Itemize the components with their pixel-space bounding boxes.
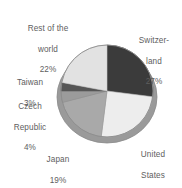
pie-label-switzerland-line2: land (128, 57, 180, 67)
pie-label-rest-of-world-line2: world (8, 45, 88, 55)
pie-label-czech-republic-line1: Czech (2, 102, 58, 112)
pie-label-rest-of-world-line1: Rest of the (8, 24, 88, 34)
pie-label-united-states: United States 25% (126, 140, 180, 188)
pie-label-taiwan-line1: Taiwan (2, 78, 58, 88)
pie-label-switzerland: Switzer- land 27% (128, 26, 180, 97)
pie-label-united-states-line1: United (126, 150, 180, 160)
pie-label-czech-republic-line2: Republic (2, 123, 58, 133)
pie-chart: Rest of the world 22% Switzer- land 27% … (0, 0, 182, 188)
pie-label-japan: Japan 19% (30, 145, 86, 188)
pie-label-switzerland-percent: 27% (128, 77, 180, 87)
pie-label-japan-line1: Japan (30, 155, 86, 165)
pie-label-united-states-line2: States (126, 171, 180, 181)
pie-slice-united-states (101, 91, 152, 137)
pie-label-switzerland-line1: Switzer- (128, 36, 180, 46)
pie-label-japan-percent: 19% (30, 176, 86, 186)
